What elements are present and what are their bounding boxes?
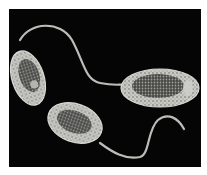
bacteria-illustration bbox=[0, 0, 207, 175]
lower-flagellum bbox=[100, 116, 184, 157]
right-cell bbox=[121, 69, 199, 107]
lower-cell bbox=[42, 96, 108, 151]
upper-left-cell bbox=[4, 46, 52, 109]
